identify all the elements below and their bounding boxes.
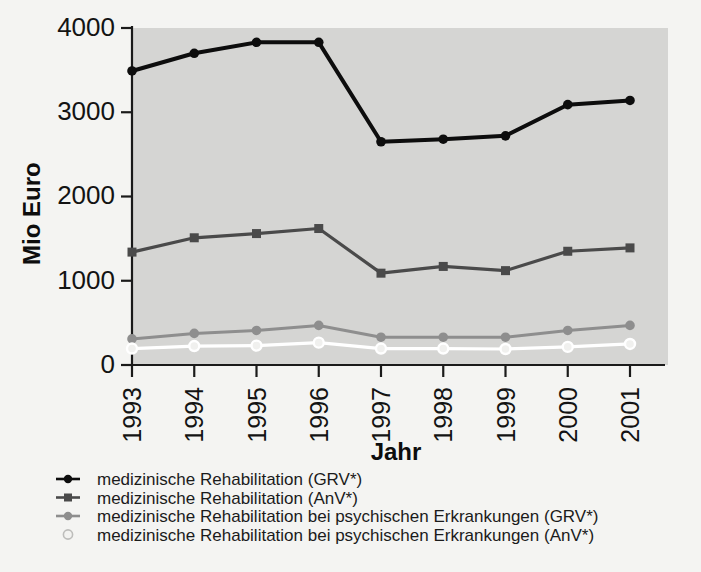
data-point xyxy=(563,342,573,352)
data-point xyxy=(190,233,199,242)
chart-figure: 0100020003000400019931994199519961997199… xyxy=(0,0,701,572)
x-tick-label: 1999 xyxy=(492,387,520,443)
legend-label: medizinische Rehabilitation bei psychisc… xyxy=(97,507,598,526)
data-point xyxy=(501,344,511,354)
y-tick-label: 4000 xyxy=(57,12,115,42)
data-point xyxy=(438,134,448,144)
data-point xyxy=(563,326,573,336)
data-point xyxy=(127,344,137,354)
y-tick-label: 2000 xyxy=(57,180,115,210)
data-point xyxy=(189,48,199,58)
data-point xyxy=(625,321,635,331)
data-point xyxy=(127,334,137,344)
data-point xyxy=(314,224,323,233)
data-point xyxy=(439,262,448,271)
data-point xyxy=(377,269,386,278)
legend-item-3[interactable]: medizinische Rehabilitation bei psychisc… xyxy=(63,526,594,545)
legend-item-0[interactable]: medizinische Rehabilitation (GRV*) xyxy=(56,470,362,489)
data-point xyxy=(189,341,199,351)
legend-marker xyxy=(64,512,72,520)
legend-item-1[interactable]: medizinische Rehabilitation (AnV*) xyxy=(56,489,358,508)
plot-background xyxy=(132,28,668,365)
y-axis-title: Mio Euro xyxy=(18,162,45,265)
x-axis-title: Jahr xyxy=(371,438,422,465)
x-tick-label: 1993 xyxy=(118,387,146,443)
data-point xyxy=(501,266,510,275)
data-point xyxy=(625,96,635,106)
data-point xyxy=(252,229,261,238)
legend-marker xyxy=(64,494,72,502)
data-point xyxy=(563,100,573,110)
data-point xyxy=(376,344,386,354)
y-tick-label: 0 xyxy=(101,349,115,379)
data-point xyxy=(376,332,386,342)
data-point xyxy=(563,247,572,256)
x-tick-label: 1997 xyxy=(367,387,395,443)
x-tick-label: 1996 xyxy=(305,387,333,443)
line-chart: 0100020003000400019931994199519961997199… xyxy=(0,0,701,572)
x-tick-label: 2000 xyxy=(554,387,582,443)
data-point xyxy=(376,137,386,147)
data-point xyxy=(252,38,262,48)
data-point xyxy=(314,338,324,348)
legend-label: medizinische Rehabilitation (GRV*) xyxy=(97,470,362,489)
y-tick-label: 3000 xyxy=(57,96,115,126)
data-point xyxy=(127,66,137,76)
data-point xyxy=(314,321,324,331)
x-tick-label: 2001 xyxy=(616,387,644,443)
data-point xyxy=(501,332,511,342)
data-point xyxy=(314,38,324,48)
y-tick-label: 1000 xyxy=(57,265,115,295)
legend-marker xyxy=(64,475,72,483)
data-point xyxy=(252,341,262,351)
data-point xyxy=(128,248,137,257)
data-point xyxy=(501,131,511,141)
x-tick-label: 1994 xyxy=(180,387,208,443)
data-point xyxy=(626,243,635,252)
legend-label: medizinische Rehabilitation bei psychisc… xyxy=(97,526,594,545)
data-point xyxy=(438,332,448,342)
x-tick-label: 1998 xyxy=(429,387,457,443)
legend-marker xyxy=(63,530,72,539)
data-point xyxy=(189,329,199,339)
legend-item-2[interactable]: medizinische Rehabilitation bei psychisc… xyxy=(56,507,598,526)
x-tick-label: 1995 xyxy=(243,387,271,443)
data-point xyxy=(252,326,262,336)
data-point xyxy=(438,344,448,354)
legend-label: medizinische Rehabilitation (AnV*) xyxy=(97,489,358,508)
data-point xyxy=(625,339,635,349)
